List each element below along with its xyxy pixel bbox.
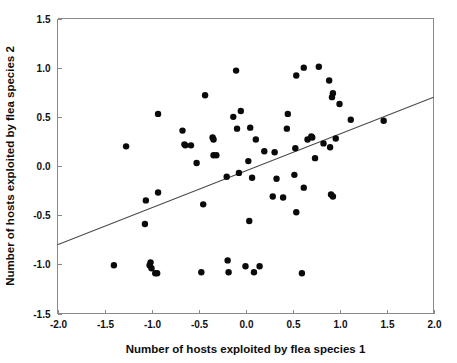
x-tick-label: -1.5 [97, 319, 115, 330]
scatter-point [380, 118, 386, 124]
y-tick-label: 1.0 [37, 63, 51, 74]
scatter-point [182, 142, 188, 148]
scatter-point [245, 158, 251, 164]
scatter-point [202, 92, 208, 98]
x-tick-label: 1.5 [381, 319, 395, 330]
scatter-point [330, 90, 336, 96]
scatter-point [316, 63, 322, 69]
scatter-point [249, 175, 255, 181]
x-tick-label: 0.0 [240, 319, 254, 330]
scatter-point [293, 72, 299, 78]
scatter-point [309, 134, 315, 140]
scatter-point [285, 111, 291, 117]
scatter-point [327, 144, 333, 150]
scatter-point [333, 135, 339, 141]
scatter-point [280, 194, 286, 200]
scatter-point [251, 269, 257, 275]
scatter-point [111, 262, 117, 268]
scatter-plot-figure: -2.0-1.5-1.0-0.50.00.51.01.52.0 -1.5-1.0… [0, 0, 457, 363]
x-tick-label: 1.0 [334, 319, 348, 330]
scatter-point [234, 125, 240, 131]
scatter-point [238, 108, 244, 114]
scatter-point [155, 111, 161, 117]
y-tick-label: -0.5 [33, 210, 51, 221]
scatter-point [213, 152, 219, 158]
scatter-point [230, 114, 236, 120]
scatter-point [293, 209, 299, 215]
x-tick-label: -2.0 [50, 319, 68, 330]
x-axis-ticks [59, 310, 435, 314]
scatter-point [330, 193, 336, 199]
scatter-point [291, 172, 297, 178]
x-axis-title: Number of hosts exploited by flea specie… [126, 343, 366, 355]
scatter-point [188, 142, 194, 148]
scatter-point [236, 170, 242, 176]
scatter-point [147, 259, 153, 265]
scatter-point [273, 176, 279, 182]
scatter-point [270, 193, 276, 199]
scatter-point [224, 257, 230, 263]
x-tick-label: 0.5 [287, 319, 301, 330]
scatter-point [200, 201, 206, 207]
scatter-point [142, 221, 148, 227]
scatter-point [210, 136, 216, 142]
scatter-point [320, 140, 326, 146]
scatter-point [271, 149, 277, 155]
y-tick-label: 1.5 [37, 14, 51, 25]
scatter-point [256, 263, 262, 269]
scatter-point [301, 64, 307, 70]
regression-line [58, 97, 434, 245]
scatter-point [253, 136, 259, 142]
regression-line-group [58, 97, 434, 245]
scatter-point [261, 148, 267, 154]
scatter-point [155, 189, 161, 195]
scatter-point [312, 155, 318, 161]
scatter-point [224, 174, 230, 180]
scatter-point [247, 124, 253, 130]
scatter-point [246, 218, 252, 224]
y-axis-title: Number of hosts exploited by flea specie… [4, 46, 16, 286]
scatter-point [299, 270, 305, 276]
y-tick-label: 0.5 [37, 112, 51, 123]
x-tick-label: -0.5 [191, 319, 209, 330]
y-tick-label: 0.0 [37, 161, 51, 172]
scatter-point [143, 197, 149, 203]
scatter-point [123, 143, 129, 149]
scatter-point [242, 263, 248, 269]
y-axis-tick-labels: -1.5-1.0-0.50.00.51.01.5 [33, 14, 51, 320]
x-tick-label: 2.0 [428, 319, 442, 330]
scatter-point [348, 117, 354, 123]
y-axis-ticks [58, 20, 62, 315]
scatter-point [198, 269, 204, 275]
scatter-point [292, 145, 298, 151]
y-tick-label: -1.0 [33, 259, 51, 270]
scatter-point [179, 127, 185, 133]
plot-canvas: -2.0-1.5-1.0-0.50.00.51.01.52.0 -1.5-1.0… [0, 0, 457, 363]
scatter-point [284, 125, 290, 131]
scatter-point [301, 184, 307, 190]
x-tick-label: -1.0 [144, 319, 162, 330]
scatter-point [154, 270, 160, 276]
scatter-point [193, 160, 199, 166]
scatter-point [326, 77, 332, 83]
y-tick-label: -1.5 [33, 309, 51, 320]
x-axis-tick-labels: -2.0-1.5-1.0-0.50.00.51.01.52.0 [50, 319, 442, 330]
scatter-point [225, 269, 231, 275]
scatter-point [233, 67, 239, 73]
scatter-point [336, 101, 342, 107]
